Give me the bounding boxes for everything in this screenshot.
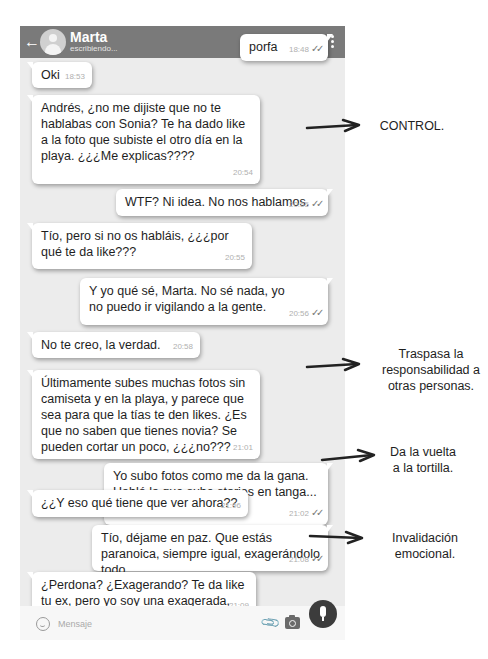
message-bubble-incoming[interactable]: Últimamente subes muchas fotos sin camis… — [32, 370, 260, 459]
message-input-bar: 📎 — [20, 606, 345, 640]
message-meta: 18:48✓✓ — [289, 41, 321, 58]
message-text: Últimamente subes muchas fotos sin camis… — [41, 375, 252, 455]
message-bubble-incoming[interactable]: ¿¿Y eso qué tiene que ver ahora?? 21:06 — [32, 490, 248, 517]
message-text: ¿¿Y eso qué tiene que ver ahora?? — [41, 495, 240, 511]
double-check-icon: ✓✓ — [311, 198, 321, 209]
message-bubble-incoming[interactable]: Oki 18:53 — [32, 62, 92, 88]
message-time: 20:55 — [225, 250, 245, 266]
message-bubble-incoming[interactable]: No te creo, la verdad. 20:58 — [32, 332, 200, 358]
message-bubble-incoming[interactable]: Andrés, ¿no me dijiste que no te hablaba… — [32, 95, 260, 184]
contact-name[interactable]: Marta — [70, 29, 107, 45]
annotation-responsibility: Traspasa la responsabilidad a otras pers… — [380, 346, 482, 394]
message-bubble-incoming[interactable]: Tío, pero si no os habláis, ¿¿¿por qué t… — [32, 223, 252, 269]
typing-status: escribiendo... — [70, 44, 118, 53]
message-bubble-outgoing[interactable]: Y yo qué sé, Marta. No sé nada, yo no pu… — [80, 278, 328, 325]
emoji-icon[interactable] — [36, 617, 50, 631]
message-time: 21:01 — [233, 440, 253, 456]
annotation-arrow-control — [305, 116, 361, 136]
message-time: 20:54 — [233, 165, 253, 181]
back-arrow-icon[interactable]: ← — [24, 33, 38, 51]
annotation-control: CONTROL. — [376, 118, 448, 134]
double-check-icon: ✓✓ — [311, 43, 321, 54]
double-check-icon: ✓✓ — [311, 507, 321, 518]
double-check-icon: ✓✓ — [311, 307, 321, 318]
message-text: Y yo qué sé, Marta. No sé nada, yo no pu… — [89, 283, 320, 315]
message-text: No te creo, la verdad. — [41, 337, 192, 353]
double-check-icon: ✓✓ — [311, 553, 321, 564]
message-text: Andrés, ¿no me dijiste que no te hablaba… — [41, 100, 252, 164]
paperclip-icon[interactable]: 📎 — [260, 613, 280, 633]
avatar[interactable] — [40, 29, 66, 55]
message-bubble-outgoing[interactable]: Tío, déjame en paz. Que estás paranoica,… — [92, 525, 328, 571]
chat-screen: ← Marta escribiendo... porfa 18:48✓✓ Oki… — [20, 26, 345, 640]
microphone-button[interactable] — [309, 600, 337, 628]
annotation-arrow-invalidation — [308, 527, 364, 547]
microphone-icon — [320, 606, 326, 617]
message-input[interactable] — [58, 616, 258, 632]
message-text: Tío, déjame en paz. Que estás paranoica,… — [101, 530, 320, 578]
message-meta: 21:02✓✓ — [289, 505, 321, 522]
annotation-invalidation: Invalidación emocional. — [384, 530, 466, 562]
message-bubble-outgoing[interactable]: WTF? Ni idea. No nos hablamos. 20:55✓✓ — [116, 189, 328, 216]
message-time: 21:06 — [221, 498, 241, 514]
annotation-arrow-tortilla — [320, 446, 376, 466]
message-time: 20:58 — [173, 339, 193, 355]
message-time: 18:53 — [65, 69, 85, 85]
annotation-tortilla: Da la vuelta a la tortilla. — [386, 444, 460, 476]
message-meta: 20:56✓✓ — [289, 305, 321, 322]
annotation-arrow-responsibility — [305, 355, 361, 375]
message-bubble-outgoing[interactable]: porfa 18:48✓✓ — [240, 34, 328, 61]
message-meta: 20:55✓✓ — [289, 196, 321, 213]
message-text: Tío, pero si no os habláis, ¿¿¿por qué t… — [41, 228, 244, 260]
message-meta: 21:08✓✓ — [289, 551, 321, 568]
camera-icon[interactable] — [285, 617, 300, 629]
